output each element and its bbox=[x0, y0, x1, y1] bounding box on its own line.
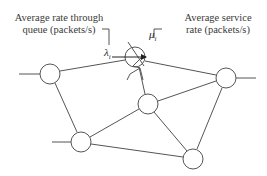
edge-middle-bottomright bbox=[154, 112, 187, 151]
node-bottom-left bbox=[71, 132, 91, 152]
edge-bottomleft-bottomright bbox=[91, 144, 183, 157]
edge-middle-bottomleft bbox=[90, 109, 139, 137]
node-middle bbox=[138, 94, 158, 114]
edge-left-bottomleft bbox=[55, 83, 77, 132]
lambda-subscript: i bbox=[109, 53, 111, 61]
edge-left-top bbox=[60, 60, 125, 71]
lambda-symbol: λi bbox=[104, 46, 111, 61]
arrival-rate-label: Average rate through queue (packets/s) bbox=[8, 12, 110, 36]
node-right bbox=[216, 68, 236, 88]
arrival-rate-label-line2: queue (packets/s) bbox=[8, 24, 110, 36]
service-rate-label-line1: Average service bbox=[176, 12, 260, 24]
node-bottom-right bbox=[183, 149, 203, 169]
mu-subscript: i bbox=[155, 35, 157, 43]
edge-top-right bbox=[145, 61, 216, 75]
edge-top-middle bbox=[139, 67, 145, 94]
edge-middle-right bbox=[158, 81, 216, 101]
service-rate-label: Average service rate (packets/s) bbox=[176, 12, 260, 36]
node-left bbox=[40, 64, 60, 84]
service-rate-label-line2: rate (packets/s) bbox=[176, 24, 260, 36]
edge-right-bottomright bbox=[197, 88, 222, 149]
queue-tail-left bbox=[127, 74, 130, 80]
arrival-rate-label-line1: Average rate through bbox=[8, 12, 110, 24]
mu-symbol: μi bbox=[149, 28, 156, 43]
